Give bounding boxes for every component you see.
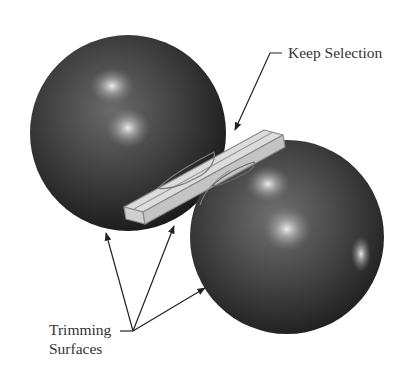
left-sphere-highlight-1	[90, 68, 134, 104]
left-sphere-highlight-2	[106, 108, 150, 148]
leader-to-left-sphere	[106, 233, 133, 331]
trimming-surfaces-label-line2: Surfaces	[49, 339, 111, 358]
trimming-surfaces-label: Trimming Surfaces	[49, 320, 111, 358]
leader-to-plate	[133, 226, 174, 331]
right-sphere-highlight-2	[263, 207, 311, 251]
keep-selection-leader	[235, 53, 282, 130]
keep-selection-label: Keep Selection	[288, 43, 382, 62]
right-sphere-highlight-3	[351, 236, 371, 272]
leader-to-right-sphere	[133, 288, 205, 331]
left-sphere	[30, 35, 226, 231]
right-sphere-highlight-1	[246, 166, 290, 202]
trimming-surfaces-label-line1: Trimming	[49, 320, 111, 339]
